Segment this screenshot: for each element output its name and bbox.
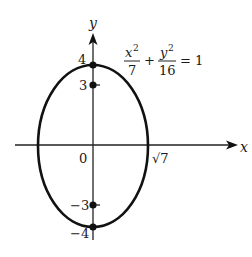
label-y4: 4 (78, 52, 86, 67)
label-y3: 3 (79, 78, 87, 93)
eq-plus: + (144, 53, 155, 68)
label-y-3: −3 (70, 198, 89, 213)
eq-x-exp: 2 (133, 43, 139, 53)
eq-y: y (159, 45, 168, 60)
ellipse-equation: x 2 7 + y 2 16 = 1 (124, 43, 203, 78)
point-vertex-bottom (89, 223, 96, 230)
point-vertex-top (89, 61, 96, 68)
eq-equals-one: = 1 (180, 53, 203, 68)
point-focus-bottom (89, 201, 96, 208)
y-axis-label: y (88, 15, 98, 31)
label-origin: 0 (79, 151, 87, 166)
eq-y-exp: 2 (168, 43, 174, 53)
eq-denom-7: 7 (128, 63, 136, 78)
ellipse-diagram: y x 4 3 0 √7 −3 −4 x 2 7 + y 2 16 = 1 (0, 0, 252, 257)
point-focus-top (89, 81, 96, 88)
diagram-svg: y x 4 3 0 √7 −3 −4 x 2 7 + y 2 16 = 1 (0, 0, 252, 257)
label-sqrt7: √7 (152, 151, 169, 166)
eq-denom-16: 16 (159, 63, 176, 78)
eq-x: x (125, 45, 133, 60)
x-axis-label: x (240, 139, 248, 155)
label-y-4: −4 (70, 226, 89, 241)
